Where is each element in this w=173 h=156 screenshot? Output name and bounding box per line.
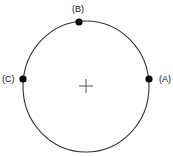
center-crosshair-icon — [79, 79, 93, 93]
point-b-label: (B) — [72, 4, 84, 14]
point-c-dot — [19, 75, 26, 82]
point-c-label: (C) — [2, 74, 15, 84]
point-b-dot — [75, 18, 82, 25]
circle-diagram: (A) (B) (C) — [0, 0, 173, 156]
point-a-label: (A) — [159, 74, 171, 84]
point-a-dot — [145, 75, 152, 82]
